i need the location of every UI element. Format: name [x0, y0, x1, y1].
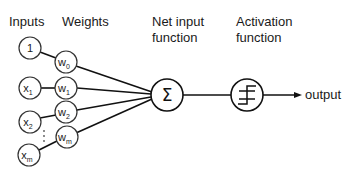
ellipsis-icon [43, 130, 45, 142]
sigma-icon: Σ [162, 85, 173, 105]
edge-xm-wm [39, 141, 57, 150]
edge-x2-w2 [40, 115, 56, 118]
output-arrowhead-icon [294, 92, 302, 98]
output-label: output [305, 87, 342, 102]
edge-w2-sum [77, 97, 151, 110]
perceptron-diagram: 1 x1 x2 xm w0 w1 w2 wm Σ output [0, 0, 358, 180]
edge-w1-sum [77, 88, 151, 94]
edge-1-w0 [40, 52, 56, 58]
input-label-bias: 1 [27, 42, 33, 54]
